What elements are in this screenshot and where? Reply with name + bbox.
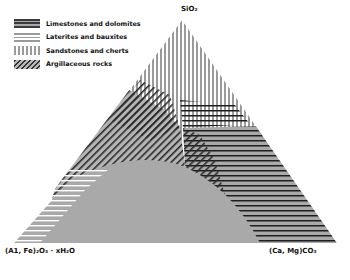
legend-item-sandstones: Sandstones and cherts: [14, 45, 141, 57]
sandstone-pattern-icon: [14, 46, 40, 55]
vertex-label-sio2: SiO₂: [181, 5, 197, 13]
limestone-pattern-icon: [14, 19, 40, 28]
laterite-pattern-icon: [14, 33, 40, 42]
legend-item-laterites: Laterites and bauxites: [14, 32, 141, 44]
legend-label: Argillaceous rocks: [46, 60, 112, 68]
legend-label: Sandstones and cherts: [46, 47, 129, 55]
vertex-label-alumina: (A1, Fe)₂O₃ · xH₂O: [5, 247, 75, 255]
legend: Limestones and dolomites Laterites and b…: [14, 18, 141, 72]
legend-label: Laterites and bauxites: [46, 33, 127, 41]
vertex-label-carbonate: (Ca, Mg)CO₃: [269, 247, 317, 255]
legend-item-limestones: Limestones and dolomites: [14, 18, 141, 30]
argillaceous-pattern-icon: [14, 60, 40, 69]
legend-label: Limestones and dolomites: [46, 20, 141, 28]
legend-item-argillaceous: Argillaceous rocks: [14, 59, 141, 71]
